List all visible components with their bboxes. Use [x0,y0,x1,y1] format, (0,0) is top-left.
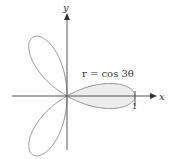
polar-rose-figure: x y 1 r = cos 3θ [0,0,169,159]
equation-label: r = cos 3θ [82,68,134,79]
y-axis-label: y [62,2,69,13]
x-axis-label: x [159,91,165,102]
x-axis-arrow-icon [150,93,157,99]
y-axis-arrow-icon [64,13,70,20]
tick-label-1: 1 [132,102,137,111]
